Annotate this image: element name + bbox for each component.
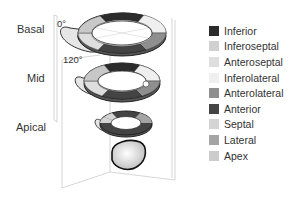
legend-item-inferoseptal: Inferoseptal (209, 39, 284, 55)
level-label-basal: Basal (17, 23, 45, 35)
legend-item-apex: Apex (209, 148, 284, 164)
legend-swatch (209, 104, 219, 114)
legend-item-anterolateral: Anterolateral (209, 85, 284, 101)
level-label-mid: Mid (27, 72, 45, 84)
legend-label: Inferoseptal (224, 40, 279, 52)
legend-swatch (209, 73, 219, 83)
legend-item-inferolateral: Inferolateral (209, 70, 284, 86)
angle-label-0: 0° (57, 18, 66, 29)
level-label-apical: Apical (16, 121, 46, 133)
legend-item-septal: Septal (209, 117, 284, 133)
legend-swatch (209, 119, 219, 129)
legend-label: Anterior (224, 103, 261, 115)
mid-ring (75, 63, 160, 102)
legend-item-anterior: Anterior (209, 101, 284, 117)
legend: Inferior Inferoseptal Anteroseptal Infer… (209, 23, 284, 163)
legend-label: Apex (224, 150, 248, 162)
legend-label: Anteroseptal (224, 56, 283, 68)
legend-swatch (209, 88, 219, 98)
basal-ring (60, 13, 166, 56)
legend-label: Inferolateral (224, 72, 279, 84)
legend-swatch (209, 151, 219, 161)
legend-swatch (209, 26, 219, 36)
legend-label: Anterolateral (224, 87, 284, 99)
apex-cap (112, 140, 145, 169)
legend-item-anteroseptal: Anteroseptal (209, 54, 284, 70)
apical-ring (95, 111, 152, 137)
angle-label-120: 120° (63, 54, 83, 65)
legend-item-lateral: Lateral (209, 132, 284, 148)
legend-label: Septal (224, 118, 254, 130)
legend-item-inferior: Inferior (209, 23, 284, 39)
legend-swatch (209, 41, 219, 51)
legend-label: Inferior (224, 25, 257, 37)
legend-swatch (209, 57, 219, 67)
legend-swatch (209, 135, 219, 145)
legend-label: Lateral (224, 134, 256, 146)
